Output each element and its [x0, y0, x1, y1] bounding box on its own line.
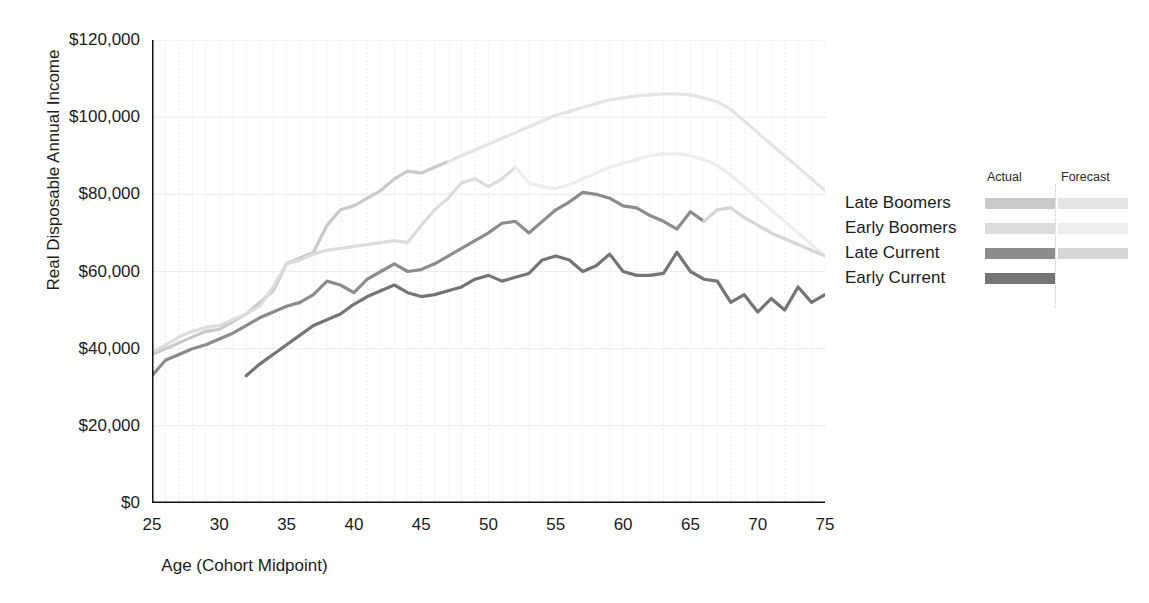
legend-label: Late Current: [845, 243, 975, 263]
legend-label: Late Boomers: [845, 193, 975, 213]
legend-swatch-forecast: [1058, 248, 1128, 259]
y-tick-label: $80,000: [20, 184, 140, 204]
x-tick-label: 50: [459, 515, 519, 535]
x-tick-label: 45: [391, 515, 451, 535]
x-tick-label: 65: [660, 515, 720, 535]
x-tick-label: 55: [526, 515, 586, 535]
x-tick-label: 25: [122, 515, 182, 535]
y-tick-label: $20,000: [20, 416, 140, 436]
legend-swatch-forecast: [1058, 223, 1128, 234]
chart-root: Real Disposable Annual Income $0$20,000$…: [0, 0, 1149, 603]
line-forecast: [704, 208, 825, 256]
legend-swatch-actual: [985, 248, 1055, 259]
legend-swatch-forecast: [1058, 198, 1128, 209]
legend-swatch-actual: [985, 273, 1055, 284]
legend-header-actual: Actual: [987, 170, 1022, 184]
y-tick-label: $40,000: [20, 339, 140, 359]
x-tick-label: 70: [728, 515, 788, 535]
line-actual: [246, 252, 825, 375]
legend-label: Early Boomers: [845, 218, 975, 238]
legend-row[interactable]: Early Current: [845, 267, 1135, 292]
y-tick-label: $120,000: [20, 30, 140, 50]
y-tick-label: $0: [20, 493, 140, 513]
legend-rows: Late BoomersEarly BoomersLate CurrentEar…: [845, 192, 1135, 292]
x-tick-label: 40: [324, 515, 384, 535]
x-axis-title-text: Age (Cohort Midpoint): [161, 556, 327, 575]
line-actual: [152, 167, 515, 352]
x-tick-label: 75: [795, 515, 855, 535]
y-tick-label: $60,000: [20, 262, 140, 282]
chart-svg: [152, 40, 825, 503]
y-axis-tick-labels: $0$20,000$40,000$60,000$80,000$100,000$1…: [22, 0, 140, 603]
gridlines: [152, 40, 825, 503]
legend-header-forecast: Forecast: [1061, 170, 1110, 184]
legend-row[interactable]: Early Boomers: [845, 217, 1135, 242]
legend-row[interactable]: Late Boomers: [845, 192, 1135, 217]
x-axis-title: Age (Cohort Midpoint): [0, 556, 1149, 576]
legend-swatch-actual: [985, 198, 1055, 209]
legend-label: Early Current: [845, 268, 975, 288]
legend-header: Actual Forecast: [845, 170, 1135, 192]
x-tick-label: 35: [257, 515, 317, 535]
legend-row[interactable]: Late Current: [845, 242, 1135, 267]
plot-area: [152, 40, 825, 503]
legend-swatch-actual: [985, 223, 1055, 234]
line-actual: [152, 162, 448, 355]
x-tick-label: 30: [189, 515, 249, 535]
y-tick-label: $100,000: [20, 107, 140, 127]
chart-legend: Actual Forecast Late BoomersEarly Boomer…: [845, 170, 1135, 292]
x-tick-label: 60: [593, 515, 653, 535]
series-early-current: [246, 252, 825, 375]
